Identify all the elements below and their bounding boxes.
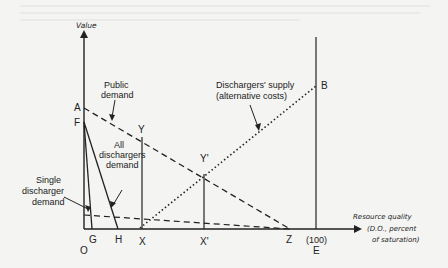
point-y: Y [138, 124, 145, 135]
label-100: (100) [306, 235, 327, 245]
resource-quality-diagram: Value Public demand Dischargers' supply … [0, 0, 448, 268]
x-axis-label-3: of saturation) [372, 236, 420, 244]
point-x: X [139, 236, 146, 247]
point-f: F [74, 117, 80, 128]
public-demand-pointer [112, 100, 115, 117]
point-g: G [89, 234, 97, 245]
supply-pointer [250, 105, 258, 127]
supply-label-2: (alternative costs) [216, 91, 287, 101]
x-axis-label-1: Resource quality [353, 213, 413, 221]
all-dischargers-demand-curve [84, 122, 118, 229]
public-demand-label-1: Public [104, 80, 129, 90]
supply-label-1: Dischargers' supply [216, 80, 295, 90]
single-discharger-line [84, 122, 92, 229]
point-e: E [313, 245, 320, 256]
point-b: B [321, 80, 328, 91]
arrowhead-icon [109, 114, 115, 121]
all-dischargers-label-2: dischargers [99, 150, 146, 160]
single-discharger-label-1: Single [36, 175, 61, 185]
point-o: O [80, 245, 88, 256]
point-y-prime: Y' [200, 153, 209, 164]
public-demand-label-2: demand [101, 90, 134, 100]
all-dischargers-label-1: All [114, 140, 124, 150]
point-x-prime: X' [200, 236, 209, 247]
y-axis-arrow-icon [80, 30, 88, 38]
point-a: A [74, 102, 81, 113]
point-z: Z [286, 234, 292, 245]
point-h: H [115, 234, 122, 245]
single-discharger-label-2: discharger [22, 186, 64, 196]
single-discharger-label-3: demand [32, 197, 65, 207]
all-dischargers-label-3: demand [106, 160, 139, 170]
arrowhead-icon [255, 123, 261, 131]
background-text-bleed [20, 6, 430, 20]
y-axis-label: Value [76, 21, 97, 30]
x-axis-label-2: (D.O., percent [367, 225, 416, 233]
x-axis-arrow-icon [354, 225, 362, 233]
